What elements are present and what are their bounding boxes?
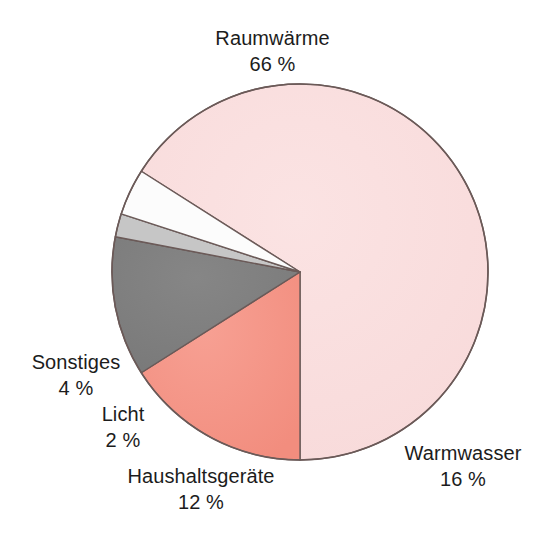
pie-label-warmwasser: Warmwasser 16 % — [388, 441, 538, 492]
pie-label-sonstiges-name: Sonstiges — [14, 350, 138, 376]
pie-label-sonstiges-value: 4 % — [14, 376, 138, 402]
pie-label-raumwaerme: Raumwärme 66 % — [0, 26, 545, 77]
pie-label-raumwaerme-value: 66 % — [0, 52, 545, 78]
pie-label-sonstiges: Sonstiges 4 % — [14, 350, 138, 401]
pie-label-warmwasser-name: Warmwasser — [388, 441, 538, 467]
pie-label-haushaltsgeraete-name: Haushaltsgeräte — [96, 464, 306, 490]
pie-label-raumwaerme-name: Raumwärme — [0, 26, 545, 52]
pie-label-haushaltsgeraete: Haushaltsgeräte 12 % — [96, 464, 306, 515]
pie-label-warmwasser-value: 16 % — [388, 467, 538, 493]
pie-label-licht-name: Licht — [77, 402, 169, 428]
pie-chart: Raumwärme 66 % Warmwasser 16 % Haushalts… — [0, 0, 545, 536]
pie-label-licht: Licht 2 % — [77, 402, 169, 453]
pie-label-haushaltsgeraete-value: 12 % — [96, 490, 306, 516]
pie-label-licht-value: 2 % — [77, 428, 169, 454]
